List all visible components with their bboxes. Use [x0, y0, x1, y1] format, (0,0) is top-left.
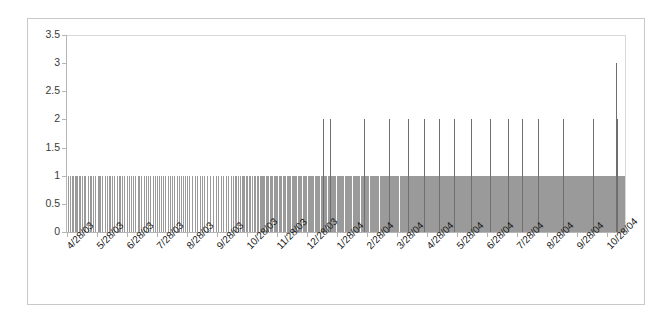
bar — [218, 176, 219, 232]
bar — [129, 176, 130, 232]
y-axis-tick-label: 2.5 — [30, 85, 60, 96]
bar — [319, 176, 320, 232]
bar — [183, 176, 184, 232]
x-axis-tick-mark — [457, 233, 458, 237]
y-axis-tick-label: 1.5 — [30, 142, 60, 153]
bar — [378, 176, 379, 232]
x-axis-tick-mark — [217, 233, 218, 237]
x-axis-tick-mark — [397, 233, 398, 237]
bar — [290, 176, 291, 232]
bar — [153, 176, 154, 232]
bar — [226, 176, 227, 232]
bar — [343, 176, 344, 232]
bar — [133, 176, 134, 232]
bar — [98, 176, 99, 232]
bar — [195, 176, 196, 232]
x-axis-tick-mark — [337, 233, 338, 237]
bar — [197, 176, 198, 232]
x-axis-tick-mark — [517, 233, 518, 237]
bar — [281, 176, 282, 232]
bar — [368, 176, 369, 232]
x-axis-tick-mark — [277, 233, 278, 237]
x-axis-tick-mark — [127, 233, 128, 237]
bar — [168, 176, 169, 232]
bar — [80, 176, 81, 232]
bar — [93, 176, 94, 232]
x-axis-tick-mark — [547, 233, 548, 237]
bar — [73, 176, 74, 232]
bar — [165, 176, 166, 232]
bar — [76, 176, 77, 232]
bar — [244, 176, 245, 232]
bar — [161, 176, 162, 232]
bar — [252, 176, 253, 232]
bar — [157, 176, 158, 232]
bar — [185, 176, 186, 232]
bar — [70, 176, 71, 232]
bar — [155, 176, 156, 232]
bar — [124, 176, 125, 232]
bar — [102, 176, 103, 232]
x-axis-tick-mark — [427, 233, 428, 237]
y-axis-tick-label: 3.5 — [30, 29, 60, 40]
x-axis-tick-mark — [97, 233, 98, 237]
chart-figure: 00.511.522.533.5 4/28/035/28/036/28/037/… — [0, 0, 662, 325]
bar — [228, 176, 229, 232]
x-axis-tick-mark — [487, 233, 488, 237]
x-axis-tick-mark — [307, 233, 308, 237]
bar — [138, 176, 139, 232]
y-axis-tick-label: 2 — [30, 113, 60, 124]
bar — [247, 176, 248, 232]
bar — [258, 176, 259, 232]
bar — [127, 176, 128, 232]
bar — [216, 176, 217, 232]
bar — [213, 176, 214, 232]
y-axis-tick-label: 3 — [30, 57, 60, 68]
x-axis-tick-mark — [607, 233, 608, 237]
bar — [313, 176, 314, 232]
y-axis-tick-label: 0.5 — [30, 198, 60, 209]
x-axis-tick-mark — [187, 233, 188, 237]
bar — [105, 176, 106, 232]
bar — [135, 176, 136, 232]
bar — [100, 176, 101, 232]
bar — [77, 176, 78, 232]
bar — [139, 176, 140, 232]
bar — [221, 176, 222, 232]
bar — [95, 176, 96, 232]
plot-right-border — [625, 35, 626, 233]
bar — [163, 176, 164, 232]
bar — [68, 176, 69, 232]
x-axis-tick-mark — [367, 233, 368, 237]
bar — [250, 176, 251, 232]
y-axis-tick-label: 0 — [30, 226, 60, 237]
bar — [398, 176, 399, 232]
x-axis-tick-mark — [157, 233, 158, 237]
x-axis-tick-mark — [247, 233, 248, 237]
bar — [200, 176, 201, 232]
plot-area — [67, 35, 625, 232]
bar — [170, 176, 171, 232]
bar — [192, 176, 193, 232]
bar — [110, 176, 111, 232]
bar — [255, 176, 256, 232]
bar — [131, 176, 132, 232]
y-axis-tick-label: 1 — [30, 170, 60, 181]
bar — [187, 176, 188, 232]
bar — [231, 176, 232, 232]
bar — [107, 176, 108, 232]
bar — [189, 176, 190, 232]
bar — [159, 176, 160, 232]
x-axis-tick-mark — [67, 233, 68, 237]
bar — [223, 176, 224, 232]
bar — [285, 176, 286, 232]
x-axis-tick-mark — [577, 233, 578, 237]
